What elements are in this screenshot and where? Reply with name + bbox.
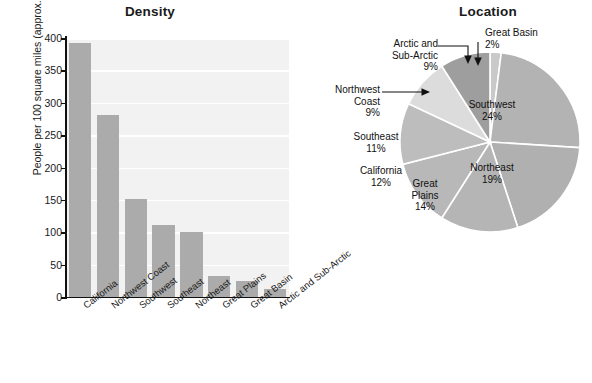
y-tick-0: 0 — [28, 292, 62, 303]
pie-callout-great-basin: Great Basin 2% — [485, 27, 538, 50]
southeast-value: 11% — [340, 143, 412, 155]
great-basin-label: Great Basin — [485, 27, 538, 39]
gridline-300 — [66, 103, 289, 105]
southeast-label: Southeast — [340, 131, 412, 143]
x-axis-line — [62, 297, 290, 299]
pie-slice-label-southeast: Southeast 11% — [340, 131, 412, 154]
pie-callout-arctic: Arctic and Sub-Arctic 9% — [358, 38, 438, 73]
y-tick-350: 350 — [28, 65, 62, 76]
bar-southeast — [152, 225, 174, 297]
y-tick-150: 150 — [28, 195, 62, 206]
y-tickmark-0 — [61, 297, 66, 299]
great-plains-value: 14% — [398, 201, 452, 213]
y-tickmark-150 — [61, 200, 66, 202]
y-tickmark-100 — [61, 232, 66, 234]
bar-california — [69, 43, 91, 297]
density-bar-chart: Density People per 100 square miles (app… — [0, 0, 330, 383]
bar-plot-area — [66, 38, 289, 297]
y-tick-250: 250 — [28, 130, 62, 141]
pie-slice-label-california: California 12% — [346, 165, 416, 188]
y-tickmark-400 — [61, 38, 66, 40]
y-tick-100: 100 — [28, 227, 62, 238]
y-tick-200: 200 — [28, 163, 62, 174]
great-plains-label-line2: Plains — [398, 190, 452, 202]
northwest-value: 9% — [320, 107, 380, 119]
pie-slice-label-northeast: Northeast 19% — [450, 162, 534, 185]
northwest-label-line1: Northwest — [320, 84, 380, 96]
y-tickmark-200 — [61, 168, 66, 170]
pie-callout-northwest-coast: Northwest Coast 9% — [320, 84, 380, 119]
great-basin-value: 2% — [485, 39, 538, 51]
california-value: 12% — [346, 177, 416, 189]
bar-northwest-coast — [97, 115, 119, 297]
y-tick-400: 400 — [28, 33, 62, 44]
bar-southwest — [125, 199, 147, 297]
california-label: California — [346, 165, 416, 177]
arctic-label-line2: Sub-Arctic — [358, 50, 438, 62]
northwest-label-line2: Coast — [320, 96, 380, 108]
gridline-400 — [66, 38, 289, 40]
arctic-label-line1: Arctic and — [358, 38, 438, 50]
y-tick-50: 50 — [28, 260, 62, 271]
bar-great-basin — [236, 281, 258, 297]
y-tick-labels: 400 350 300 250 200 150 100 50 0 — [24, 0, 62, 383]
y-tickmark-250 — [61, 135, 66, 137]
gridline-350 — [66, 70, 289, 72]
y-tickmark-300 — [61, 103, 66, 105]
arctic-value: 9% — [358, 61, 438, 73]
bar-great-plains — [208, 276, 230, 297]
southwest-value: 24% — [448, 111, 536, 123]
southwest-label: Southwest — [448, 99, 536, 111]
arctic-leader — [438, 46, 468, 56]
northeast-label: Northeast — [450, 162, 534, 174]
y-tick-300: 300 — [28, 98, 62, 109]
location-pie-chart: Location Great Basin 2% Arctic and Sub-A… — [330, 0, 592, 383]
y-tickmark-50 — [61, 265, 66, 267]
y-tickmark-350 — [61, 70, 66, 72]
bar-northeast — [180, 232, 202, 297]
northeast-value: 19% — [450, 174, 534, 186]
pie-slice-label-southwest: Southwest 24% — [448, 99, 536, 122]
